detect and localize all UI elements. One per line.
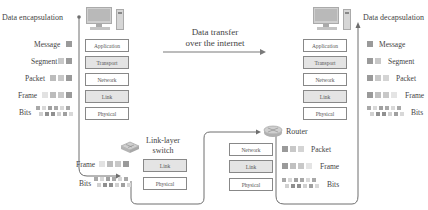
header-block <box>115 161 121 167</box>
bits-pattern <box>94 177 132 189</box>
message-block <box>123 161 129 167</box>
transfer-caption: Data transfer over the internet <box>165 27 265 49</box>
trailer-block <box>391 92 397 98</box>
pdu-label-bits: Bits <box>79 180 91 188</box>
transfer-caption-line2: over the internet <box>165 38 265 49</box>
sender-layer-network: Network <box>85 73 129 86</box>
pdu-label-packet: Packet <box>25 75 45 83</box>
router-icon <box>262 124 284 138</box>
message-block <box>367 58 373 64</box>
computer-icon <box>313 7 353 31</box>
pdu-label-packet: Packet <box>396 75 416 83</box>
pdu-label-frame: Frame <box>76 161 95 169</box>
pdu-label-bits: Bits <box>19 109 31 117</box>
message-block <box>66 75 72 81</box>
router-layer-network: Network <box>229 143 273 156</box>
bits-pattern <box>282 178 320 190</box>
sender-layer-transport: Transport <box>85 56 129 69</box>
pdu-label-packet: Packet <box>311 146 331 154</box>
header-block <box>383 92 389 98</box>
network-switch-icon <box>119 140 141 154</box>
transfer-caption-line1: Data transfer <box>165 27 265 38</box>
header-block <box>375 75 381 81</box>
pdu-label-message: Message <box>379 41 405 49</box>
trailer-block <box>42 92 48 98</box>
receiver-layer-transport: Transport <box>303 56 347 69</box>
message-block <box>66 41 72 47</box>
message-block <box>282 163 288 169</box>
receiver-layer-link: Link <box>303 90 347 103</box>
header-block <box>107 161 113 167</box>
pdu-label-frame: Frame <box>18 92 37 100</box>
header-block <box>290 163 296 169</box>
message-block <box>66 92 72 98</box>
switch-label-line1: Link-layer <box>145 136 181 146</box>
router-label: Router <box>286 128 308 136</box>
pdu-label-frame: Frame <box>320 163 339 171</box>
header-block <box>50 92 56 98</box>
header-block <box>58 92 64 98</box>
pdu-label-bits: Bits <box>327 181 339 189</box>
message-block <box>367 92 373 98</box>
switch-layer-link: Link <box>143 159 187 172</box>
pdu-label-segment: Segment <box>31 58 57 66</box>
sender-layer-physical: Physical <box>85 107 129 120</box>
header-block <box>298 163 304 169</box>
receiver-layer-physical: Physical <box>303 107 347 120</box>
encapsulation-title: Data encapsulation <box>2 14 63 22</box>
router-layer-link: Link <box>229 160 273 173</box>
receiver-layer-network: Network <box>303 73 347 86</box>
message-block <box>282 146 288 152</box>
header-block <box>50 75 56 81</box>
header-block <box>298 146 304 152</box>
header-block <box>375 58 381 64</box>
computer-icon <box>86 7 126 31</box>
header-block <box>290 146 296 152</box>
header-block <box>383 75 389 81</box>
message-block <box>66 58 72 64</box>
pdu-label-segment: Segment <box>388 58 414 66</box>
bits-pattern <box>36 106 74 118</box>
decapsulation-title: Data decapsulation <box>363 14 424 22</box>
router-layer-physical: Physical <box>229 178 273 191</box>
switch-layer-physical: Physical <box>143 177 187 190</box>
header-block <box>58 58 64 64</box>
pdu-label-frame: Frame <box>405 92 424 100</box>
message-block <box>367 75 373 81</box>
header-block <box>58 75 64 81</box>
sender-layer-link: Link <box>85 90 129 103</box>
bits-pattern <box>367 106 405 118</box>
pdu-label-message: Message <box>34 41 60 49</box>
receiver-layer-application: Application <box>303 39 347 52</box>
switch-label-line2: switch <box>145 146 181 156</box>
sender-layer-application: Application <box>85 39 129 52</box>
pdu-label-bits: Bits <box>411 109 423 117</box>
switch-label: Link-layer switch <box>145 136 181 156</box>
trailer-block <box>306 163 312 169</box>
message-block <box>367 41 373 47</box>
header-block <box>375 92 381 98</box>
trailer-block <box>99 161 105 167</box>
